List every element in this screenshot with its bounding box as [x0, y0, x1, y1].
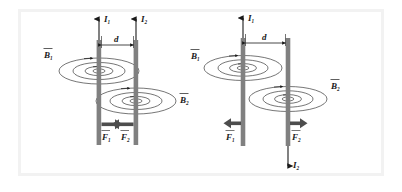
left-panel-current-1-label: I1	[103, 14, 111, 25]
left-panel-force-2-label: F2	[120, 132, 130, 143]
left-panel-force-2-arrow	[112, 119, 134, 129]
right-panel-wire-1	[241, 38, 246, 146]
left-panel-separation-label: d	[114, 34, 119, 44]
right-panel-force-2-arrow	[290, 118, 308, 128]
right-panel-separation-dimension: d	[246, 32, 286, 46]
right-panel-wire-2	[286, 38, 291, 146]
left-panel-field-1-label: B1	[43, 50, 53, 61]
right-panel-current-1-label: I1	[247, 13, 255, 24]
left-panel-field-2-label: B2	[179, 95, 189, 106]
right-panel: I1 I2 d F1 F2 B1	[190, 13, 340, 171]
right-panel-force-1-label: F1	[225, 132, 235, 143]
left-panel-force-1-label: F1	[101, 132, 111, 143]
left-panel-wire-1	[97, 40, 102, 145]
right-panel-force-1-arrow	[224, 118, 242, 128]
physics-diagram: I1 I2 d F1 F2 B1	[0, 0, 402, 192]
left-panel-current-2-label: I2	[140, 14, 148, 25]
right-panel-current-2-label: I2	[292, 160, 300, 171]
left-panel-separation-dimension: d	[102, 34, 134, 48]
right-panel-force-2-label: F2	[291, 132, 301, 143]
right-panel-separation-label: d	[262, 32, 267, 42]
left-panel: I1 I2 d F1 F2 B1	[43, 14, 189, 145]
left-panel-wire-2	[134, 40, 139, 145]
right-panel-field-1-label: B1	[190, 51, 200, 62]
right-panel-field-2-label: B2	[330, 81, 340, 92]
